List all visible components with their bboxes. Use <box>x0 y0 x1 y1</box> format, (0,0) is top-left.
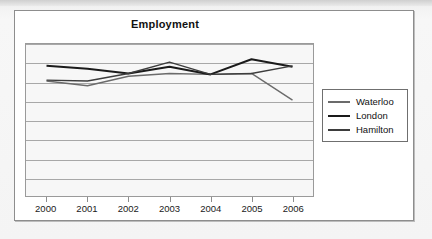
chart-card: Employment 2000200120022003200420052006 … <box>14 10 414 221</box>
x-axis-tick <box>87 197 88 202</box>
legend-item-london[interactable]: London <box>323 109 407 123</box>
legend-line-icon <box>328 115 350 118</box>
x-axis-label: 2000 <box>26 203 66 214</box>
x-axis-label: 2001 <box>67 203 107 214</box>
series-line-hamilton <box>46 62 292 81</box>
legend-item-label: Hamilton <box>356 125 394 135</box>
chart-legend: WaterlooLondonHamilton <box>322 89 408 142</box>
legend-item-label: Waterloo <box>356 97 394 107</box>
plot-series-svg <box>26 44 313 196</box>
x-axis: 2000200120022003200420052006 <box>25 197 314 219</box>
x-axis-tick <box>211 197 212 202</box>
x-axis-label: 2003 <box>150 203 190 214</box>
legend-line-icon <box>328 101 350 103</box>
x-axis-tick <box>46 197 47 202</box>
plot-area <box>25 43 314 197</box>
legend-item-waterloo[interactable]: Waterloo <box>323 95 407 109</box>
x-axis-tick <box>128 197 129 202</box>
x-axis-tick <box>170 197 171 202</box>
chart-title: Employment <box>15 18 315 30</box>
x-axis-label: 2006 <box>273 203 313 214</box>
x-axis-tick <box>293 197 294 202</box>
x-axis-label: 2002 <box>108 203 148 214</box>
legend-item-label: London <box>356 111 388 121</box>
legend-item-hamilton[interactable]: Hamilton <box>323 123 407 137</box>
scanned-page-background: Employment 2000200120022003200420052006 … <box>0 0 432 239</box>
x-axis-tick <box>252 197 253 202</box>
legend-line-icon <box>328 129 350 131</box>
x-axis-label: 2005 <box>232 203 272 214</box>
x-axis-label: 2004 <box>191 203 231 214</box>
series-line-waterloo <box>46 73 292 100</box>
